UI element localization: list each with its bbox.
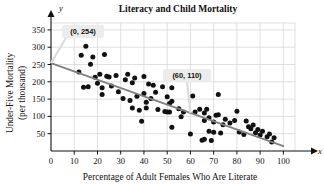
literacy-child-mortality-scatter-chart: Literacy and Child Mortality 01020304050… bbox=[0, 0, 324, 184]
data-point bbox=[79, 53, 84, 58]
chart-title: Literacy and Child Mortality bbox=[119, 4, 238, 14]
data-point bbox=[207, 129, 212, 134]
data-point bbox=[216, 92, 221, 97]
y-tick-label: 350 bbox=[32, 25, 45, 35]
y-axis-label-line1: Under-Five Mortality bbox=[5, 53, 15, 133]
data-point bbox=[244, 118, 249, 123]
y-tick-label: 250 bbox=[32, 60, 45, 70]
data-point bbox=[197, 107, 202, 112]
data-point bbox=[137, 108, 142, 113]
data-point bbox=[255, 127, 260, 132]
data-point bbox=[260, 129, 265, 134]
data-point bbox=[209, 138, 214, 143]
x-tick-label: 100 bbox=[277, 156, 290, 166]
data-point bbox=[155, 107, 160, 112]
data-point bbox=[83, 44, 88, 49]
data-point bbox=[123, 77, 128, 82]
y-tick-label: 50 bbox=[36, 129, 45, 139]
data-point bbox=[169, 99, 174, 104]
data-point bbox=[234, 109, 239, 114]
y-axis-variable-name: y bbox=[58, 3, 63, 13]
data-point bbox=[251, 123, 256, 128]
data-point bbox=[90, 54, 95, 59]
data-point bbox=[227, 120, 232, 125]
data-point bbox=[169, 125, 174, 130]
data-point bbox=[204, 107, 209, 112]
callout-60-110: (60, 110) bbox=[172, 71, 202, 80]
x-axis-label: Percentage of Adult Females Who Are Lite… bbox=[83, 172, 257, 182]
x-tick-label: 50 bbox=[163, 156, 172, 166]
data-point bbox=[188, 132, 193, 137]
data-point bbox=[232, 118, 237, 123]
y-tick-label: 150 bbox=[32, 94, 45, 104]
data-point bbox=[211, 130, 216, 135]
data-point bbox=[216, 112, 221, 117]
data-point bbox=[116, 89, 121, 94]
data-point bbox=[132, 76, 137, 81]
data-point bbox=[169, 85, 174, 90]
data-point bbox=[88, 62, 93, 67]
data-point bbox=[165, 94, 170, 99]
data-point bbox=[97, 72, 102, 77]
data-point bbox=[95, 81, 100, 86]
x-tick-label: 20 bbox=[93, 156, 102, 166]
data-point bbox=[81, 85, 86, 90]
data-point bbox=[130, 106, 135, 111]
data-point bbox=[272, 135, 277, 140]
data-point bbox=[107, 74, 112, 79]
x-tick-label: 0 bbox=[49, 156, 53, 166]
x-tick-label: 70 bbox=[209, 156, 218, 166]
data-point bbox=[130, 80, 135, 85]
data-point bbox=[153, 90, 158, 95]
data-point bbox=[179, 114, 184, 119]
data-point bbox=[144, 100, 149, 105]
data-point bbox=[141, 74, 146, 79]
x-tick-label: 30 bbox=[116, 156, 125, 166]
data-point bbox=[139, 119, 144, 124]
data-point bbox=[114, 73, 119, 78]
x-tick-label: 40 bbox=[140, 156, 149, 166]
data-point bbox=[160, 84, 165, 89]
data-point bbox=[151, 83, 156, 88]
data-point bbox=[223, 117, 228, 122]
data-point bbox=[86, 84, 91, 89]
data-point bbox=[102, 52, 107, 57]
data-point bbox=[146, 81, 151, 86]
data-point bbox=[128, 98, 133, 103]
y-tick-label: 100 bbox=[32, 111, 45, 121]
data-point bbox=[202, 137, 207, 142]
data-point bbox=[100, 85, 105, 90]
data-point bbox=[190, 93, 195, 98]
data-point bbox=[121, 96, 126, 101]
x-axis-variable-name: x bbox=[317, 146, 322, 156]
x-tick-label: 60 bbox=[186, 156, 195, 166]
data-point bbox=[144, 106, 149, 111]
data-point bbox=[125, 72, 130, 77]
data-point bbox=[167, 109, 172, 114]
data-point bbox=[100, 92, 105, 97]
y-tick-label: 300 bbox=[32, 42, 45, 52]
x-tick-label: 90 bbox=[256, 156, 265, 166]
x-tick-label: 80 bbox=[233, 156, 242, 166]
x-tick-label: 10 bbox=[70, 156, 79, 166]
data-point bbox=[218, 131, 223, 136]
y-tick-label: 200 bbox=[32, 77, 45, 87]
callout-0-254: (0, 254) bbox=[70, 27, 96, 36]
y-axis-label-line2: (per thousand) bbox=[17, 66, 28, 120]
data-point bbox=[267, 132, 272, 137]
chart-container: Literacy and Child Mortality 01020304050… bbox=[0, 0, 324, 184]
